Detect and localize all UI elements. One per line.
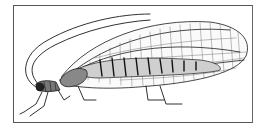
head bbox=[36, 81, 60, 92]
lacewing-illustration bbox=[0, 0, 266, 127]
